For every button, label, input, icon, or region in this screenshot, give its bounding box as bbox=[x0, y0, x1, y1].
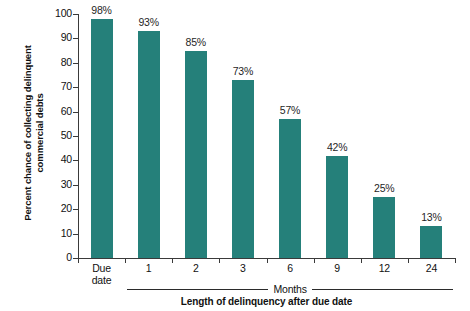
bar-value-label: 57% bbox=[268, 104, 312, 116]
bar bbox=[326, 156, 348, 258]
x-axis-tick bbox=[455, 258, 456, 263]
bar bbox=[232, 80, 254, 258]
x-axis-category-label-line: Due bbox=[78, 262, 125, 274]
y-axis-tick bbox=[73, 136, 78, 137]
months-bracket-line-left bbox=[127, 289, 268, 290]
x-axis-category-label: 12 bbox=[361, 262, 408, 274]
y-axis-tick bbox=[73, 14, 78, 15]
x-axis-category-label-line: 2 bbox=[172, 262, 219, 274]
y-axis-tick-label: 90 bbox=[50, 31, 72, 43]
y-axis-tick-label: 10 bbox=[50, 227, 72, 239]
bar bbox=[185, 51, 207, 258]
bar-item: 13% bbox=[420, 14, 442, 258]
bar bbox=[138, 31, 160, 258]
x-axis-category-label-line: date bbox=[78, 274, 125, 286]
y-axis-title: Percent chance of collecting delinquent … bbox=[14, 0, 54, 268]
bar-item: 98% bbox=[91, 14, 113, 258]
x-axis-category-label: 9 bbox=[314, 262, 361, 274]
y-axis-tick bbox=[73, 87, 78, 88]
months-bracket-label: Months bbox=[268, 283, 311, 295]
bar bbox=[373, 197, 395, 258]
y-axis-tick-label: 80 bbox=[50, 56, 72, 68]
y-axis-tick-label: 0 bbox=[50, 251, 72, 263]
x-axis-category-label: 2 bbox=[172, 262, 219, 274]
bar-value-label: 85% bbox=[174, 36, 218, 48]
bar bbox=[279, 119, 301, 258]
y-axis-tick-label: 30 bbox=[50, 178, 72, 190]
y-axis-title-line-2: commercial debts bbox=[34, 93, 47, 172]
x-axis-category-label: 1 bbox=[125, 262, 172, 274]
y-axis-tick bbox=[73, 185, 78, 186]
bar-item: 42% bbox=[326, 14, 348, 258]
bar-value-label: 25% bbox=[362, 182, 406, 194]
y-axis-tick bbox=[73, 234, 78, 235]
bar-value-label: 13% bbox=[409, 211, 453, 223]
y-axis-tick bbox=[73, 38, 78, 39]
y-axis-line bbox=[78, 14, 79, 258]
x-axis-category-label-line: 1 bbox=[125, 262, 172, 274]
y-axis-tick-label: 20 bbox=[50, 202, 72, 214]
bar-chart: Percent chance of collecting delinquent … bbox=[0, 0, 470, 311]
bar-value-label: 42% bbox=[315, 141, 359, 153]
bar bbox=[420, 226, 442, 258]
x-axis-category-label: 24 bbox=[408, 262, 455, 274]
y-axis-tick-label: 40 bbox=[50, 153, 72, 165]
x-axis-category-label-line: 24 bbox=[408, 262, 455, 274]
months-bracket: Months bbox=[127, 283, 453, 296]
bar-item: 85% bbox=[185, 14, 207, 258]
bar-value-label: 98% bbox=[80, 4, 124, 16]
bar bbox=[91, 19, 113, 258]
y-axis-tick bbox=[73, 63, 78, 64]
y-axis-tick-label: 70 bbox=[50, 80, 72, 92]
x-axis-category-label-line: 12 bbox=[361, 262, 408, 274]
y-axis-tick-label: 100 bbox=[50, 7, 72, 19]
x-axis-category-label: Duedate bbox=[78, 262, 125, 286]
x-axis-category-label-line: 6 bbox=[267, 262, 314, 274]
y-axis-tick-label: 50 bbox=[50, 129, 72, 141]
x-axis-category-label: 6 bbox=[267, 262, 314, 274]
months-bracket-line-right bbox=[312, 289, 453, 290]
x-axis-title: Length of delinquency after due date bbox=[78, 296, 455, 307]
bar-value-label: 93% bbox=[127, 16, 171, 28]
bar-item: 57% bbox=[279, 14, 301, 258]
y-axis-tick bbox=[73, 209, 78, 210]
x-axis-category-label-line: 9 bbox=[314, 262, 361, 274]
y-axis-tick bbox=[73, 112, 78, 113]
bar-item: 73% bbox=[232, 14, 254, 258]
y-axis-tick bbox=[73, 160, 78, 161]
bar-value-label: 73% bbox=[221, 65, 265, 77]
plot-area: 98%93%85%73%57%42%25%13% bbox=[78, 14, 455, 258]
y-axis-title-line-1: Percent chance of collecting delinquent bbox=[22, 45, 35, 221]
bar-item: 25% bbox=[373, 14, 395, 258]
x-axis-category-label: 3 bbox=[219, 262, 266, 274]
bar-item: 93% bbox=[138, 14, 160, 258]
x-axis-category-label-line: 3 bbox=[219, 262, 266, 274]
y-axis-tick-label: 60 bbox=[50, 105, 72, 117]
